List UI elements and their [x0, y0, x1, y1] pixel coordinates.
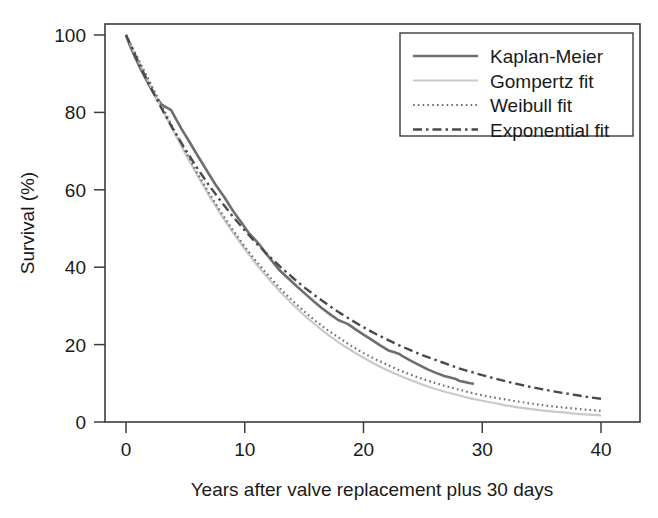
- y-axis-tick-labels: 020406080100: [54, 25, 86, 433]
- y-tick-label: 60: [65, 180, 86, 201]
- x-tick-label: 0: [121, 439, 132, 460]
- legend-label-gompertz-fit: Gompertz fit: [490, 71, 594, 92]
- y-axis-title: Survival (%): [17, 172, 38, 274]
- x-tick-label: 30: [472, 439, 493, 460]
- x-axis-ticks: [126, 422, 601, 433]
- y-tick-label: 20: [65, 335, 86, 356]
- y-tick-label: 40: [65, 257, 86, 278]
- legend-label-weibull-fit: Weibull fit: [490, 95, 573, 116]
- x-axis-title: Years after valve replacement plus 30 da…: [191, 479, 554, 500]
- x-tick-label: 10: [234, 439, 255, 460]
- y-tick-label: 0: [75, 412, 86, 433]
- chart-canvas: 010203040 020406080100 Years after valve…: [0, 0, 658, 518]
- legend: Kaplan-MeierGompertz fitWeibull fitExpon…: [400, 33, 633, 141]
- x-tick-label: 20: [353, 439, 374, 460]
- y-axis-ticks: [94, 35, 105, 422]
- legend-label-kaplan-meier: Kaplan-Meier: [490, 46, 604, 67]
- y-tick-label: 80: [65, 102, 86, 123]
- x-tick-label: 40: [590, 439, 611, 460]
- legend-label-exponential-fit: Exponential fit: [490, 120, 610, 141]
- y-tick-label: 100: [54, 25, 86, 46]
- x-axis-tick-labels: 010203040: [121, 439, 612, 460]
- survival-curve-figure: 010203040 020406080100 Years after valve…: [0, 0, 658, 518]
